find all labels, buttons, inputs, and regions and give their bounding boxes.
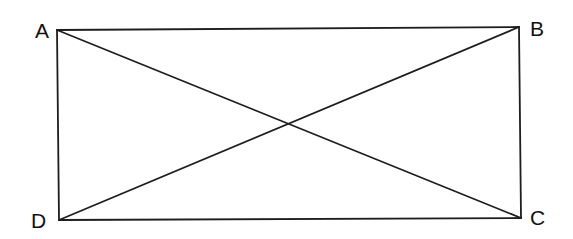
side-cd: [59, 218, 521, 220]
vertex-label-a: A: [35, 19, 49, 42]
rectangle-diagram: A B C D: [0, 0, 573, 239]
vertex-label-c: C: [530, 206, 545, 229]
vertex-label-d: D: [31, 209, 46, 232]
side-da: [57, 30, 59, 220]
vertex-label-b: B: [530, 17, 544, 40]
side-ab: [57, 27, 519, 30]
diagonal-bd: [59, 27, 519, 220]
side-bc: [519, 27, 521, 218]
